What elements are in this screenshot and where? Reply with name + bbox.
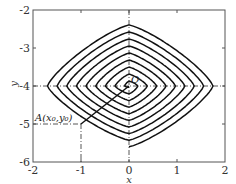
x-axis-label: x: [126, 174, 132, 184]
svg-text:2: 2: [222, 164, 229, 177]
svg-text:-4: -4: [19, 80, 30, 93]
origin-label: O: [131, 74, 139, 85]
y-axis-label: y: [8, 81, 19, 88]
svg-text:1: 1: [174, 164, 181, 177]
svg-text:-5: -5: [19, 118, 30, 131]
phase-portrait-figure: -2 -3 -4 -5 -6 -2 -1 0 1 2 x y O A(x₀,y₀…: [0, 0, 236, 184]
y-tick-labels: -2 -3 -4 -5 -6: [19, 4, 30, 169]
svg-text:-1: -1: [76, 164, 87, 177]
svg-text:-2: -2: [28, 164, 39, 177]
point-a-label: A(x₀,y₀): [34, 112, 73, 123]
svg-text:-2: -2: [19, 4, 30, 17]
svg-text:-3: -3: [19, 42, 30, 55]
